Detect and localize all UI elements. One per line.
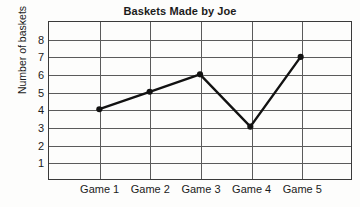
y-axis-tick-label: 5 (4, 87, 44, 99)
data-point-marker (247, 124, 253, 130)
data-point-marker (147, 89, 153, 95)
series-markers (96, 54, 303, 130)
x-axis-tick-label: Game 5 (270, 183, 334, 195)
y-axis-tick-label: 4 (4, 104, 44, 116)
data-series-layer (49, 22, 351, 179)
line-chart-figure: Baskets Made by Joe Number of baskets 12… (0, 0, 360, 207)
y-axis-tick-label: 7 (4, 51, 44, 63)
y-axis-tick-label: 1 (4, 157, 44, 169)
data-point-marker (298, 54, 304, 60)
y-axis-tick-label: 3 (4, 122, 44, 134)
y-axis-tick-label: 8 (4, 34, 44, 46)
chart-title: Baskets Made by Joe (0, 5, 360, 17)
data-point-marker (197, 71, 203, 77)
data-point-marker (96, 106, 102, 112)
y-axis-tick-label: 2 (4, 140, 44, 152)
series-line-baskets (99, 57, 300, 127)
y-axis-tick-label: 6 (4, 69, 44, 81)
plot-area: 12345678 Game 1Game 2Game 3Game 4Game 5 (48, 21, 352, 180)
